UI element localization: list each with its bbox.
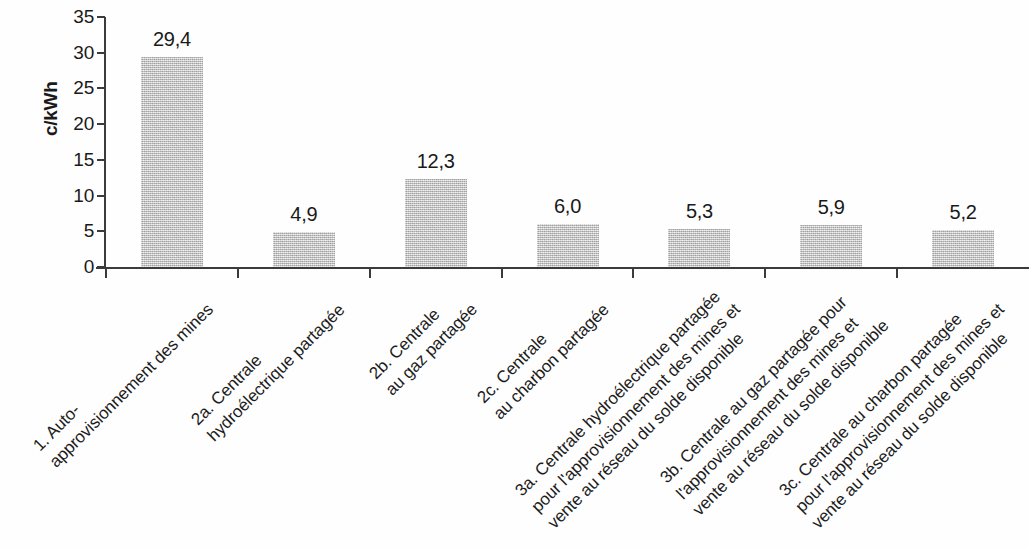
plot-area: c/kWh 35302520151050 29,44,912,36,05,35,… (0, 0, 1029, 290)
y-tick-label-text: 35 (66, 7, 94, 26)
x-category-label-line: hydroélectrique partagée (203, 298, 351, 446)
x-tick-mark (105, 269, 107, 278)
bar-value-label: 29,4 (127, 29, 217, 49)
y-tick-label-text: 25 (66, 78, 94, 97)
y-axis-title: c/kWh (40, 86, 62, 136)
x-category-label: 1. Auto-approvisionnement des mines (28, 282, 218, 472)
bar (405, 179, 467, 267)
bar (141, 57, 203, 267)
bar (537, 224, 599, 267)
bar-value-label: 5,3 (654, 201, 744, 221)
bar (800, 225, 862, 267)
x-tick-mark (764, 269, 766, 278)
y-tick-label-text: 5 (66, 221, 94, 240)
x-tick-mark (501, 269, 503, 278)
bar-value-label: 5,2 (918, 202, 1008, 222)
bar-value-label: 12,3 (391, 151, 481, 171)
x-tick-mark (369, 269, 371, 278)
y-tick-label-text: 10 (66, 186, 94, 205)
y-tick-label-text: 30 (66, 43, 94, 62)
x-category-label: 2b. Centraleau gaz partagée (364, 282, 482, 400)
chart-figure: c/kWh 35302520151050 29,44,912,36,05,35,… (0, 0, 1029, 549)
y-tick-label-text: 0 (66, 257, 94, 276)
bar-value-label: 5,9 (786, 197, 876, 217)
y-tick-label-text: 20 (66, 114, 94, 133)
x-tick-mark (632, 269, 634, 278)
bar (932, 230, 994, 267)
bar (668, 229, 730, 267)
x-tick-mark (237, 269, 239, 278)
y-axis-line (104, 17, 106, 269)
x-category-label-line: approvisionnement des mines (44, 298, 218, 472)
bar (273, 232, 335, 267)
x-tick-mark (896, 269, 898, 278)
bar-value-label: 6,0 (523, 196, 613, 216)
x-category-label-line: 1. Auto- (28, 282, 202, 456)
y-tick-label-text: 15 (66, 150, 94, 169)
bar-value-label: 4,9 (259, 204, 349, 224)
